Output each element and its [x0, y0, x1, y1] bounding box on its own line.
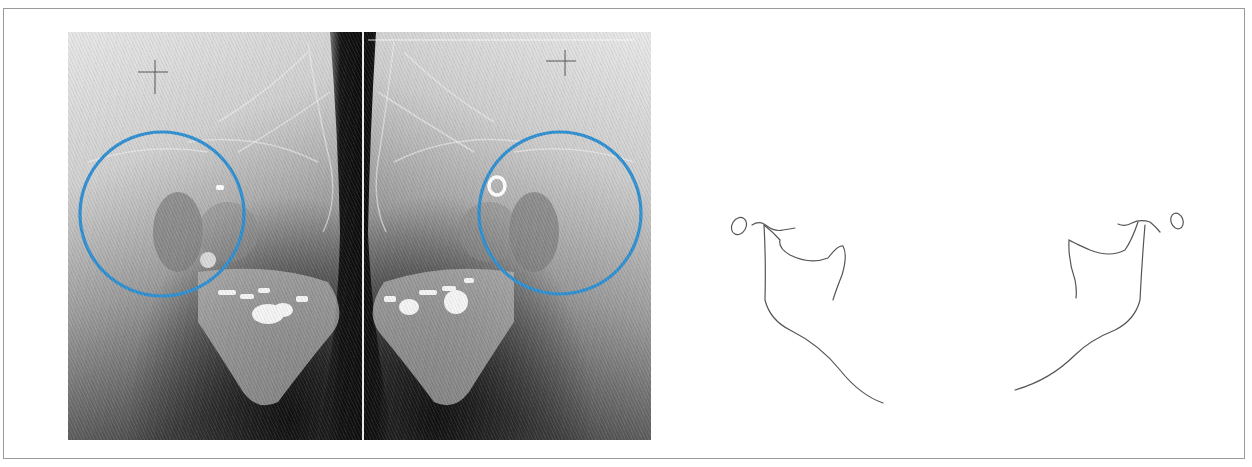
- left-radiograph: [68, 32, 362, 440]
- mandible-tracing: [700, 180, 1220, 420]
- right-mandible-tracing: [1015, 211, 1185, 390]
- left-mandible-tracing: [728, 215, 883, 403]
- bright-marker: [216, 185, 224, 190]
- right-radiograph: [364, 32, 651, 440]
